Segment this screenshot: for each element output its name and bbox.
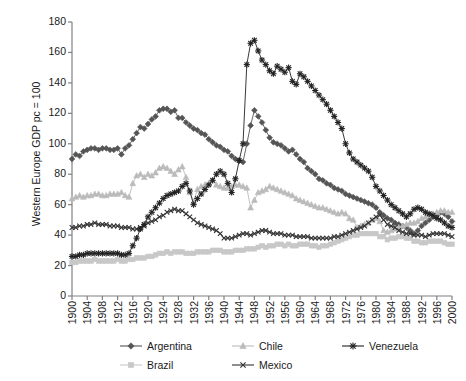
series-argentina: [69, 106, 455, 237]
legend-item-brazil[interactable]: Brazil: [118, 359, 230, 371]
chart-legend: ArgentinaChileVenezuelaBrazilMexico: [118, 336, 458, 374]
legend-item-chile[interactable]: Chile: [230, 340, 340, 352]
series-brazil: [70, 231, 455, 265]
legend-label: Chile: [259, 340, 283, 352]
line-chart-plot: [0, 0, 466, 381]
square-marker-icon: [118, 359, 144, 371]
triangle-marker-icon: [230, 340, 256, 352]
legend-label: Argentina: [147, 340, 192, 352]
star-marker-icon: [340, 340, 366, 352]
legend-row: ArgentinaChileVenezuela: [118, 336, 458, 355]
legend-label: Brazil: [147, 359, 173, 371]
diamond-marker-icon: [118, 340, 144, 352]
legend-item-mexico[interactable]: Mexico: [230, 359, 340, 371]
chart-figure: Western Europe GDP pc = 100 020406080100…: [0, 0, 466, 381]
legend-item-venezuela[interactable]: Venezuela: [340, 340, 458, 352]
legend-label: Mexico: [259, 359, 292, 371]
legend-item-argentina[interactable]: Argentina: [118, 340, 230, 352]
legend-label: Venezuela: [369, 340, 418, 352]
legend-row: BrazilMexico: [118, 355, 458, 374]
cross-marker-icon: [230, 359, 256, 371]
